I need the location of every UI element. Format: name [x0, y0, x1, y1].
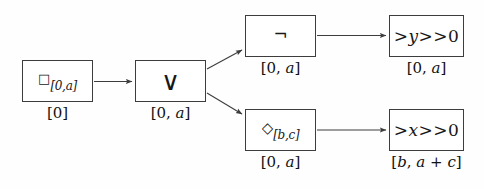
node-diamond-subscript: [b,c]	[273, 129, 299, 141]
diamond-eventually-icon: ◇	[262, 121, 274, 136]
node-or-label: ∨	[161, 68, 180, 94]
caption-x-predicate-interval: [b, a + c]	[384, 153, 469, 171]
node-x-predicate: >x> > 0	[389, 109, 464, 151]
node-not-operator: ¬	[245, 15, 316, 57]
node-or-operator: ∨	[135, 60, 206, 102]
caption-or-interval: [0, a]	[135, 104, 206, 122]
node-box-operator: □[0,a]	[22, 60, 93, 102]
node-y-predicate-label: >y> > 0	[394, 28, 460, 45]
node-diamond-label: ◇[b,c]	[262, 123, 300, 138]
node-x-predicate-label: >x> > 0	[394, 122, 460, 139]
box-always-icon: □	[38, 72, 50, 85]
caption-diamond-interval: [0, a]	[245, 153, 316, 171]
node-box-subscript: [0,a]	[50, 80, 76, 92]
logical-or-icon: ∨	[161, 68, 180, 94]
logical-not-icon: ¬	[273, 26, 287, 43]
caption-box-interval: [0]	[22, 104, 93, 122]
node-y-predicate: >y> > 0	[389, 15, 464, 57]
edge-or-to-not	[207, 50, 242, 69]
caption-not-interval: [0, a]	[245, 59, 316, 77]
caption-y-predicate-interval: [0, a]	[389, 59, 464, 77]
formula-graph-figure: □[0,a] ∨ ¬ ◇[b,c] >y> > 0 >x> > 0 [0] [0…	[0, 0, 484, 189]
edge-or-to-diamond	[207, 93, 242, 114]
node-box-label: □[0,a]	[38, 75, 77, 88]
node-not-label: ¬	[273, 28, 287, 45]
node-diamond-operator: ◇[b,c]	[245, 109, 316, 151]
